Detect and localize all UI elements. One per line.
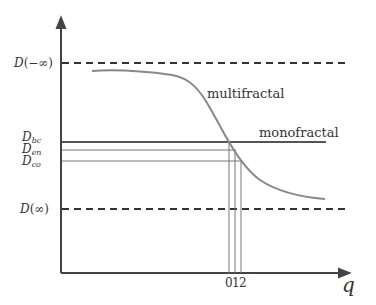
d-plus-inf-label: D(∞) [19,202,49,216]
dq-spectrum-diagram: D(−∞) Dbc Den Dco D(∞) multifractal mono… [0,0,376,305]
d-minus-inf-label: D(−∞) [13,56,53,70]
monofractal-label: monofractal [259,125,339,140]
x-tick-2: 2 [239,276,247,290]
x-axis-label: q [342,273,355,297]
multifractal-label: multifractal [207,86,284,101]
